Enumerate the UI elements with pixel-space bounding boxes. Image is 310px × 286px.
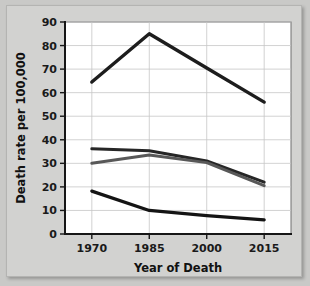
plot-area (65, 22, 291, 234)
x-tick-label: 2015 (249, 242, 280, 255)
x-tick-labels: 1970198520002015 (77, 242, 280, 255)
y-axis-title: Death rate per 100,000 (14, 52, 28, 204)
y-tick-label: 0 (49, 228, 57, 241)
x-tick-label: 2000 (191, 242, 222, 255)
y-tick-label: 20 (42, 181, 58, 194)
y-tick-label: 30 (42, 157, 58, 170)
y-tick-label: 60 (42, 87, 58, 100)
y-tick-label: 70 (42, 63, 58, 76)
line-chart: 0102030405060708090 1970198520002015 Dea… (7, 6, 303, 278)
x-tick-label: 1970 (77, 242, 108, 255)
y-tick-label: 50 (42, 110, 58, 123)
y-tick-labels: 0102030405060708090 (42, 16, 58, 241)
y-tick-label: 90 (42, 16, 58, 29)
x-tick-label: 1985 (134, 242, 165, 255)
chart-figure-card: 0102030405060708090 1970198520002015 Dea… (6, 5, 302, 277)
x-axis-title: Year of Death (133, 261, 222, 275)
y-tick-label: 10 (42, 204, 58, 217)
y-tick-label: 40 (42, 134, 58, 147)
y-tick-label: 80 (42, 40, 58, 53)
